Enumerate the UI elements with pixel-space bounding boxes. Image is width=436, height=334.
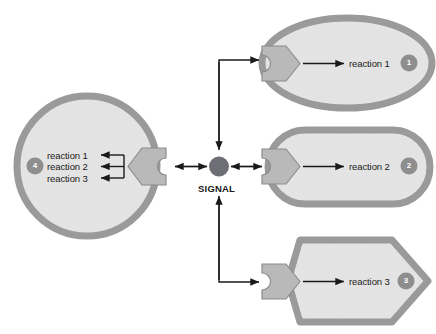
cell-3-reaction-label: reaction 3	[349, 277, 390, 287]
cell-2-reaction-label: reaction 2	[349, 162, 390, 172]
signal-molecule	[209, 157, 229, 177]
signal-label: SIGNAL	[198, 184, 235, 194]
cell-1-reaction-label: reaction 1	[349, 59, 390, 69]
connector-signal-cell1	[219, 60, 259, 150]
cell-2-badge-number: 2	[401, 162, 417, 170]
figure-canvas: SIGNAL reaction 1 reaction 2 reaction 3 …	[0, 0, 436, 334]
cell-4-badge-number: 4	[27, 162, 43, 170]
cell-1-badge-number: 1	[401, 59, 417, 67]
connector-signal-cell3	[219, 196, 259, 282]
cell-4-reaction-3-label: reaction 3	[47, 174, 88, 184]
cell-4-reaction-1-label: reaction 1	[47, 151, 88, 161]
cell-4-reaction-2-label: reaction 2	[47, 162, 88, 172]
cell-3-badge-number: 3	[398, 277, 414, 285]
